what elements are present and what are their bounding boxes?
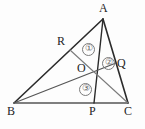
vertex-label-A: A	[99, 2, 108, 14]
region-label-2: ②	[102, 57, 115, 70]
vertex-label-O: O	[77, 62, 86, 74]
geometry-figure: A B C O P Q R ① ② ③	[0, 0, 145, 129]
region-1-text: ①	[85, 43, 93, 53]
vertex-label-R: R	[57, 35, 65, 47]
vertex-label-Q: Q	[117, 57, 126, 69]
vertex-label-B: B	[7, 105, 15, 117]
vertex-label-P: P	[89, 105, 96, 117]
region-3-text: ③	[82, 83, 90, 93]
region-2-text: ②	[105, 57, 113, 67]
region-label-3: ③	[79, 83, 92, 96]
region-label-1: ①	[82, 43, 95, 56]
vertex-label-C: C	[124, 105, 132, 117]
segment-cevian-BQ	[14, 63, 116, 103]
